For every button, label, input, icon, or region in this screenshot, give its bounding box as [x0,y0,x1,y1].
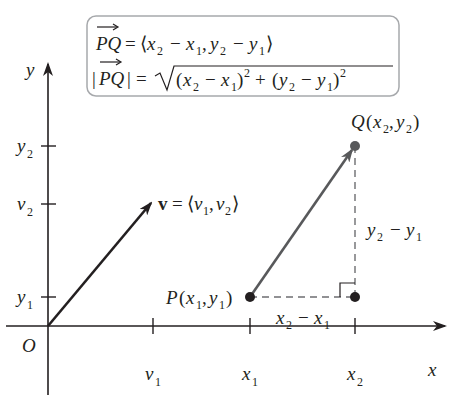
label-vertical-difference: y2 − y1 [365,219,422,244]
svg-text:2: 2 [244,66,250,80]
svg-text:2: 2 [27,147,33,161]
svg-text:2: 2 [225,204,231,218]
point-corner [350,292,360,302]
svg-text:PQ: PQ [95,33,122,54]
svg-text:|: | [127,68,131,89]
svg-text:y: y [208,33,219,54]
svg-text:x: x [241,363,251,384]
point-Q [350,141,360,151]
svg-text:): ) [226,287,232,309]
svg-text:⟩: ⟩ [232,193,239,214]
svg-text:2: 2 [377,230,383,244]
svg-text:x: x [182,69,192,90]
svg-text:= ⟨: = ⟨ [125,33,147,54]
x-tick-x1: x1 [241,363,258,389]
vector-PQ [250,150,352,297]
svg-text:y: y [247,33,258,54]
x-axis-label: x [427,359,437,380]
svg-text:y: y [404,219,415,240]
vector-diagram: PQ = ⟨ x2 − x1 , y2 − y1 ⟩ | PQ | = ( x2… [0,0,450,395]
svg-text:x: x [185,287,195,308]
svg-text:1: 1 [324,318,330,332]
svg-text:x: x [313,307,323,328]
y-axis-label: y [24,59,35,80]
svg-text:−: − [233,33,244,54]
svg-text:,: , [389,111,394,132]
svg-text:x: x [185,33,195,54]
svg-text:1: 1 [416,230,422,244]
svg-text:,: , [202,287,207,308]
svg-text:y: y [315,69,326,90]
svg-text:y: y [365,219,376,240]
label-horizontal-difference: x2 − x1 [275,307,330,332]
svg-text:2: 2 [357,375,363,389]
svg-text:): ) [237,69,243,91]
svg-text:(: ( [366,111,372,133]
y-tick-y2: y2 [15,135,33,161]
y-tick-v2: v2 [17,193,33,219]
x-tick-x2: x2 [346,363,363,389]
svg-text:x: x [275,307,285,328]
svg-text:P: P [165,287,178,308]
svg-text:): ) [413,111,419,133]
svg-text:PQ: PQ [98,68,125,89]
svg-text:,: , [209,193,214,214]
svg-text:2: 2 [27,205,33,219]
svg-text:v: v [216,193,225,214]
svg-text:|: | [92,68,96,89]
svg-text:1: 1 [219,298,225,312]
svg-text:2: 2 [289,80,295,94]
svg-text:1: 1 [252,375,258,389]
svg-text:y: y [15,135,26,156]
svg-text:1: 1 [155,375,161,389]
svg-text:−: − [301,69,312,90]
svg-text:v: v [17,193,26,214]
axes: y x O y2 v2 y1 v1 x1 x2 [6,59,445,395]
label-P: P ( x1 , y1 ) [165,287,232,312]
svg-text:2: 2 [193,80,199,94]
svg-text:−: − [390,219,401,240]
svg-text:(: ( [272,69,278,91]
svg-text:= ⟨: = ⟨ [172,193,194,214]
svg-text:Q: Q [351,111,365,132]
svg-text:⟩: ⟩ [266,33,273,54]
svg-text:(: ( [176,69,182,91]
svg-text:x: x [372,111,382,132]
svg-text:x: x [146,33,156,54]
svg-text:y: y [15,286,26,307]
svg-text:2: 2 [340,66,346,80]
svg-text:(: ( [179,287,185,309]
svg-text:−: − [298,307,309,328]
svg-text:): ) [333,69,339,91]
svg-text:2: 2 [157,44,163,58]
svg-text:v: v [158,193,168,214]
svg-text:v: v [194,193,203,214]
svg-text:v: v [145,363,154,384]
x-tick-v1: v1 [145,363,161,389]
svg-text:y: y [394,111,405,132]
origin-label: O [22,335,36,356]
svg-text:,: , [202,33,207,54]
formula-box: PQ = ⟨ x2 − x1 , y2 − y1 ⟩ | PQ | = ( x2… [87,16,399,96]
svg-text:1: 1 [27,298,33,312]
svg-text:x: x [346,363,356,384]
svg-text:y: y [277,69,288,90]
svg-text:−: − [170,33,181,54]
label-Q: Q ( x2 , y2 ) [351,111,419,136]
point-P [245,292,255,302]
svg-text:+: + [255,69,266,90]
svg-text:y: y [207,287,218,308]
svg-text:=: = [136,68,147,89]
svg-text:2: 2 [286,318,292,332]
svg-text:2: 2 [220,44,226,58]
y-tick-y1: y1 [15,286,33,312]
svg-text:1: 1 [259,44,265,58]
svg-text:x: x [220,69,230,90]
svg-text:2: 2 [406,122,412,136]
svg-text:−: − [205,69,216,90]
